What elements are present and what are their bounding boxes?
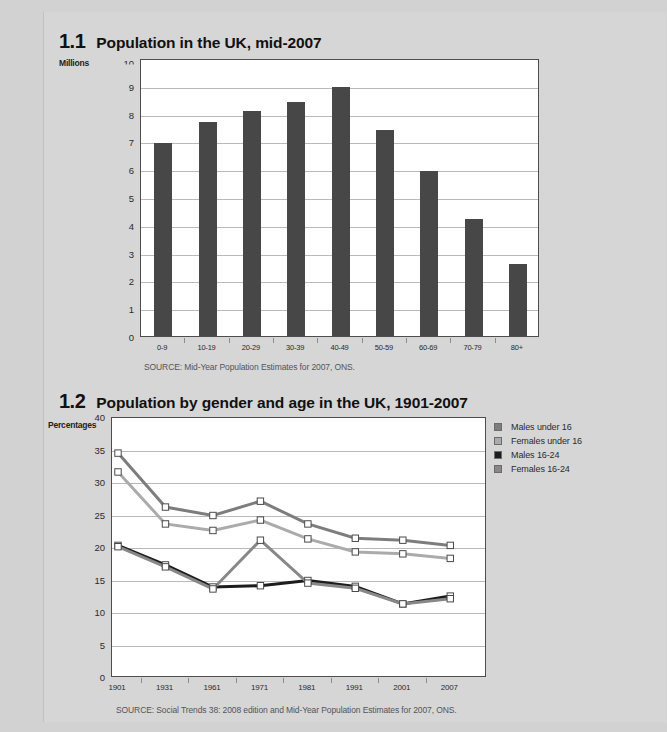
y-axis-tick-label: 2 <box>129 276 134 287</box>
x-axis-tick-mark <box>229 338 230 343</box>
x-axis-tick-mark <box>184 338 185 343</box>
y-axis-tick-label: 5 <box>129 193 134 204</box>
figure-1-1: 1.1 Population in the UK, mid-2007 Milli… <box>44 12 666 357</box>
y-axis-tick-label: 1 <box>129 304 134 315</box>
y-axis-tick-label: 4 <box>129 220 134 231</box>
x-axis-tick-mark <box>406 338 407 343</box>
x-axis-tick-mark <box>450 338 451 343</box>
data-point-marker <box>447 596 453 602</box>
line-series <box>118 540 450 604</box>
bar <box>465 219 483 336</box>
data-point-marker <box>400 537 406 543</box>
data-point-marker <box>257 517 263 523</box>
legend-item: Females under 16 <box>494 436 582 446</box>
figure-1-2-legend: Males under 16Females under 16Males 16-2… <box>494 422 582 474</box>
x-axis-tick-mark <box>188 678 189 683</box>
figure-1-2-y-axis-unit: Percentages <box>48 420 96 430</box>
bar <box>332 87 350 336</box>
legend-swatch-icon <box>494 423 502 431</box>
figure-1-2-heading: 1.2 Population by gender and age in the … <box>59 390 468 413</box>
legend-item-label: Males 16-24 <box>511 450 559 460</box>
legend-item-label: Females under 16 <box>511 436 582 446</box>
page-canvas: 1.1 Population in the UK, mid-2007 Milli… <box>0 0 667 732</box>
data-point-marker <box>115 450 121 456</box>
x-axis-tick-label: 80+ <box>487 343 547 352</box>
data-point-marker <box>352 535 358 541</box>
data-point-marker <box>305 521 311 527</box>
x-axis-tick-mark <box>331 678 332 683</box>
x-axis-tick-mark <box>317 338 318 343</box>
x-axis-tick-mark <box>495 338 496 343</box>
data-point-marker <box>210 512 216 518</box>
x-axis-tick-label: 2007 <box>419 683 479 692</box>
figure-1-2-title: Population by gender and age in the UK, … <box>96 394 468 412</box>
bar <box>154 143 172 336</box>
legend-item: Females 16-24 <box>494 464 582 474</box>
y-axis-tick-label: 0 <box>100 672 105 683</box>
y-axis-tick-label: 15 <box>94 574 105 585</box>
x-axis-tick-mark <box>273 338 274 343</box>
data-point-marker <box>210 527 216 533</box>
data-point-marker <box>352 549 358 555</box>
line-series <box>118 453 450 545</box>
legend-swatch-icon <box>494 451 502 459</box>
y-axis-tick-label: 8 <box>129 109 134 120</box>
figure-1-2: 1.2 Population by gender and age in the … <box>44 372 666 717</box>
data-point-marker <box>305 580 311 586</box>
line-series-group <box>112 418 487 678</box>
figure-1-1-plot-area <box>140 59 539 337</box>
data-point-marker <box>400 601 406 607</box>
y-axis-tick-label: 5 <box>100 639 105 650</box>
data-point-marker <box>257 583 263 589</box>
y-axis-tick-label: 35 <box>94 444 105 455</box>
bar <box>420 171 438 336</box>
legend-swatch-icon <box>494 437 502 445</box>
y-axis-tick-label: 30 <box>94 477 105 488</box>
y-axis-tick-label: 3 <box>129 248 134 259</box>
x-axis-tick-mark <box>141 678 142 683</box>
line-series <box>118 472 450 558</box>
data-point-marker <box>352 585 358 591</box>
data-point-marker <box>257 498 263 504</box>
x-axis-tick-mark <box>236 678 237 683</box>
data-point-marker <box>115 469 121 475</box>
x-axis-tick-mark <box>283 678 284 683</box>
legend-swatch-icon <box>494 465 502 473</box>
legend-item: Males 16-24 <box>494 450 582 460</box>
data-point-marker <box>305 536 311 542</box>
figure-1-2-source: SOURCE: Social Trends 38: 2008 edition a… <box>116 705 457 715</box>
y-axis-tick-label: 10 <box>94 607 105 618</box>
data-point-marker <box>162 564 168 570</box>
legend-item-label: Males under 16 <box>511 422 572 432</box>
data-point-marker <box>257 537 263 543</box>
bar <box>287 102 305 336</box>
y-axis-tick-label: 0 <box>129 332 134 343</box>
data-point-marker <box>400 551 406 557</box>
x-axis-tick-mark <box>378 678 379 683</box>
x-axis-tick-mark <box>362 338 363 343</box>
y-axis-tick-label: 20 <box>94 542 105 553</box>
data-point-marker <box>447 555 453 561</box>
legend-item-label: Females 16-24 <box>511 464 570 474</box>
data-point-marker <box>162 521 168 527</box>
data-point-marker <box>115 544 121 550</box>
y-axis-tick-label: 40 <box>94 412 105 423</box>
data-point-marker <box>162 504 168 510</box>
bar <box>509 264 527 336</box>
bar <box>243 111 261 336</box>
figure-1-1-title: Population in the UK, mid-2007 <box>96 34 321 52</box>
figure-1-2-number: 1.2 <box>59 390 85 413</box>
figure-1-1-source: SOURCE: Mid-Year Population Estimates fo… <box>144 362 355 372</box>
x-axis-tick-mark <box>426 678 427 683</box>
y-axis-tick-label: 7 <box>129 137 134 148</box>
data-point-marker <box>210 586 216 592</box>
y-axis-tick-label: 6 <box>129 165 134 176</box>
figure-1-1-heading: 1.1 Population in the UK, mid-2007 <box>59 30 322 53</box>
y-axis-tick-label: 9 <box>129 81 134 92</box>
figure-1-2-plot-area <box>111 417 486 677</box>
y-axis-tick-label: 25 <box>94 509 105 520</box>
figure-1-1-y-axis-unit: Millions <box>59 58 89 68</box>
data-point-marker <box>447 542 453 548</box>
figure-1-1-number: 1.1 <box>59 30 85 53</box>
legend-item: Males under 16 <box>494 422 582 432</box>
